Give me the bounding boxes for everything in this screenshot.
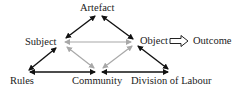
outcome-arrow-icon [170,36,188,47]
node-division-of-labour: Division of Labour [131,76,212,87]
node-object: Object [140,36,168,47]
node-outcome: Outcome [193,36,232,47]
edge-subject-rules [29,48,56,70]
edge-object-division [138,46,168,69]
edge-object-community [103,46,132,68]
node-subject: Subject [25,37,57,48]
edge-artefact-object [102,16,133,39]
edge-subject-artefact [66,16,95,38]
edge-subject-community [67,47,94,68]
node-community: Community [72,76,122,87]
node-rules: Rules [10,76,34,87]
activity-system-diagram: Artefact Subject Object Outcome Rules Co… [0,0,239,90]
node-artefact: Artefact [80,3,114,14]
